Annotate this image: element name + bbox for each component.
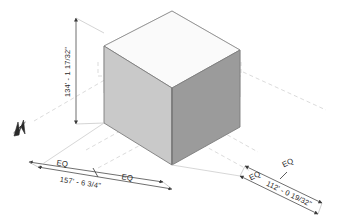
drawing-canvas: 134' - 1 17/32" EQ EQ 157' - 6 3/4" <box>0 0 338 224</box>
right-eq-midpoint-tick <box>280 172 287 179</box>
left-witness-corner <box>38 123 104 167</box>
massing-box <box>104 11 240 165</box>
north-arrow-icon <box>14 120 26 136</box>
right-eq-far-label: EQ <box>281 156 295 169</box>
left-overall-dimension-line <box>38 167 172 189</box>
guide-line-footprint-left <box>86 130 122 150</box>
left-eq-near-label: EQ <box>121 172 134 183</box>
right-witness-inner <box>240 166 245 176</box>
right-dimension-group[interactable]: EQ EQ 112' - 0 19/32" <box>172 156 322 214</box>
right-witness-corner <box>172 165 240 176</box>
right-witness-outer <box>318 203 322 214</box>
height-witness-top <box>76 18 104 33</box>
right-overall-dimension-label: 112' - 0 19/32" <box>265 179 313 209</box>
height-dimension-label: 134' - 1 17/32" <box>63 47 72 97</box>
height-witness-bottom <box>76 123 104 124</box>
left-overall-dimension-label: 157' - 6 3/4" <box>59 175 101 190</box>
left-eq-dimension-line <box>29 162 163 182</box>
right-eq-near-label: EQ <box>248 169 262 182</box>
left-eq-far-label: EQ <box>56 158 69 169</box>
guide-line-right-axis <box>243 72 326 110</box>
isometric-massing-drawing: 134' - 1 17/32" EQ EQ 157' - 6 3/4" <box>0 0 338 224</box>
